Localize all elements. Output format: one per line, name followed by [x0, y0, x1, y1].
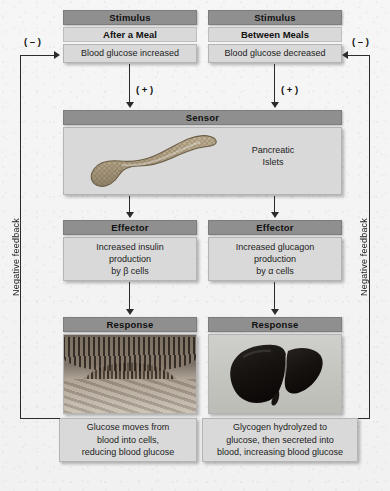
- liver-organ-photograph: [209, 335, 341, 413]
- left-response-detail: Glucose moves from blood into cells, red…: [59, 418, 197, 462]
- left-effector-to-response-line: [129, 282, 130, 311]
- right-response-detail-line2: glucose, then secreted into: [226, 434, 334, 447]
- islets-label-line2: Islets: [236, 157, 310, 169]
- right-stimulus-to-sensor-arrowhead: [271, 102, 279, 108]
- left-feedback-bottom-segment: [20, 418, 60, 419]
- right-stimulus-header: Stimulus: [208, 10, 342, 25]
- left-response-detail-line3: reducing blood glucose: [82, 446, 175, 459]
- right-sensor-to-effector-arrowhead: [271, 212, 279, 218]
- pancreatic-islets-label: Pancreatic Islets: [236, 145, 310, 168]
- left-effector-to-response-arrowhead: [126, 309, 134, 315]
- sensor-header: Sensor: [63, 110, 342, 125]
- right-response-header: Response: [208, 317, 342, 332]
- left-effector-header: Effector: [63, 220, 197, 235]
- right-feedback-vertical-line: [369, 55, 370, 419]
- right-negative-feedback-label: Negative feedback: [359, 218, 369, 296]
- left-response-header: Response: [63, 317, 197, 332]
- right-negative-sign: ( – ): [352, 36, 369, 47]
- right-positive-sign: ( + ): [281, 84, 298, 95]
- left-stimulus-to-sensor-arrowhead: [126, 102, 134, 108]
- right-stimulus-detail: Blood glucose decreased: [208, 44, 342, 63]
- right-effector-text: Increased glucagon production by α cells: [208, 237, 342, 281]
- right-effector-header: Effector: [208, 220, 342, 235]
- islets-label-line1: Pancreatic: [236, 145, 310, 157]
- left-feedback-arrowhead: [54, 51, 60, 59]
- right-response-detail-line3: blood, increasing blood glucose: [217, 446, 343, 459]
- left-stimulus-header: Stimulus: [63, 10, 197, 25]
- left-stimulus-to-sensor-line: [129, 64, 130, 104]
- intestinal-histology-micrograph: [64, 335, 196, 413]
- left-stimulus-condition: After a Meal: [63, 27, 197, 42]
- left-effector-line3: by β cells: [111, 265, 149, 277]
- right-effector-line2: production: [254, 253, 296, 265]
- histology-submucosa: [64, 379, 196, 413]
- right-effector-to-response-arrowhead: [271, 309, 279, 315]
- left-negative-feedback-label: Negative feedback: [11, 218, 21, 296]
- left-sensor-to-effector-arrowhead: [126, 212, 134, 218]
- right-effector-to-response-line: [274, 282, 275, 311]
- right-effector-line1: Increased glucagon: [236, 241, 315, 253]
- left-response-detail-line1: Glucose moves from: [87, 421, 170, 434]
- left-effector-line2: production: [109, 253, 151, 265]
- right-stimulus-to-sensor-line: [274, 64, 275, 104]
- pancreas-organ-illustration: [82, 131, 222, 187]
- left-negative-sign: ( – ): [24, 36, 41, 47]
- left-stimulus-detail: Blood glucose increased: [63, 44, 197, 63]
- histology-villi-crypts: [64, 337, 196, 371]
- right-effector-line3: by α cells: [256, 265, 294, 277]
- right-response-detail-line1: Glycogen hydrolyzed to: [233, 421, 327, 434]
- right-feedback-top-segment: [348, 55, 370, 56]
- left-positive-sign: ( + ): [136, 84, 153, 95]
- right-response-detail: Glycogen hydrolyzed to glucose, then sec…: [202, 418, 358, 462]
- left-effector-line1: Increased insulin: [96, 241, 164, 253]
- right-feedback-arrowhead: [342, 51, 348, 59]
- left-effector-text: Increased insulin production by β cells: [63, 237, 197, 281]
- right-stimulus-condition: Between Meals: [208, 27, 342, 42]
- left-feedback-top-segment: [20, 55, 55, 56]
- left-response-detail-line2: blood into cells,: [97, 434, 159, 447]
